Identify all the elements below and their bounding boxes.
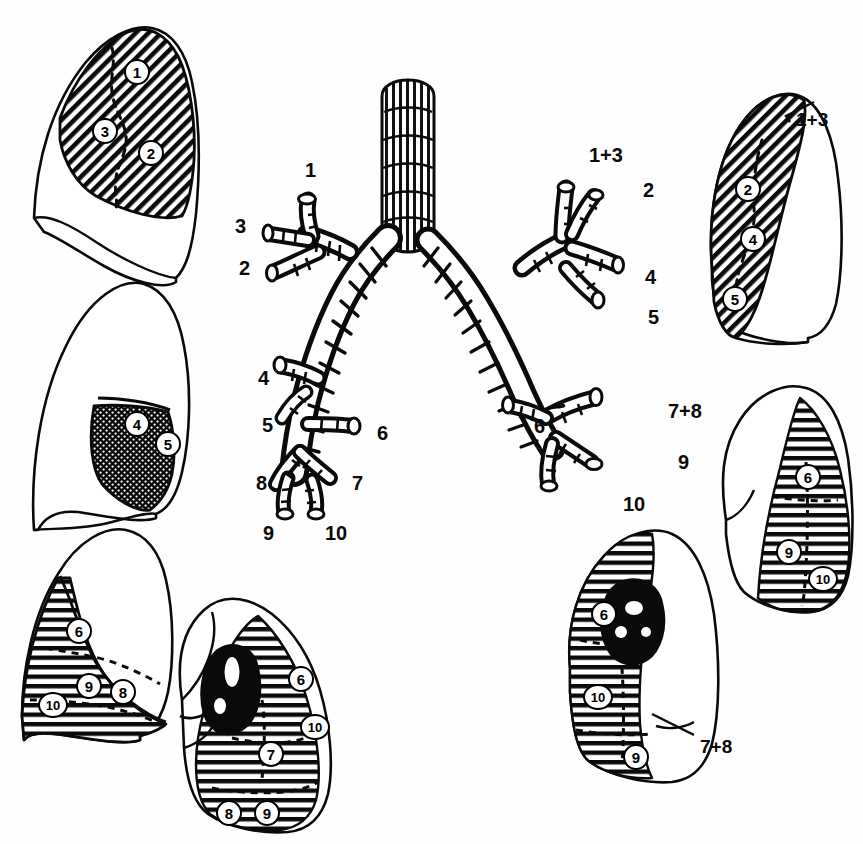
segment-badge-p5-4: 4 bbox=[740, 226, 766, 252]
tree-label-left-2: 2 bbox=[239, 258, 250, 278]
segment-badge-p4-9: 9 bbox=[254, 800, 280, 826]
segment-badge-p4-7: 7 bbox=[258, 741, 284, 767]
bronchopulmonary-segment-figure: 1 3 2 4 5 6 8 7 9 10 1+3 2 4 5 6 7+8 9 1… bbox=[0, 0, 863, 844]
bronchial-tree-artwork bbox=[263, 80, 624, 519]
segment-badge-p7-10: 10 bbox=[583, 684, 613, 710]
tree-label-right-1plus3: 1+3 bbox=[589, 145, 623, 165]
segment-badge-p6-9: 9 bbox=[776, 539, 802, 565]
segment-badge-p4-6: 6 bbox=[288, 666, 314, 692]
panel-left-lung-lateral-upper bbox=[34, 27, 199, 285]
segment-badge-p1-1: 1 bbox=[124, 59, 150, 85]
segment-badge-p3-8: 8 bbox=[110, 679, 136, 705]
tree-label-left-3: 3 bbox=[235, 216, 246, 236]
segment-badge-p5-5: 5 bbox=[722, 286, 748, 312]
segment-badge-p5-2: 2 bbox=[735, 176, 761, 202]
segment-badge-p2-5: 5 bbox=[155, 431, 181, 457]
tree-label-left-10: 10 bbox=[325, 523, 347, 543]
tree-label-left-6: 6 bbox=[377, 423, 388, 443]
tree-label-left-7: 7 bbox=[352, 473, 363, 493]
tree-label-right-5: 5 bbox=[648, 307, 659, 327]
segment-badge-p7-9: 9 bbox=[623, 744, 649, 770]
segment-badge-p7-6: 6 bbox=[591, 601, 617, 627]
segment-badge-p6-10: 10 bbox=[808, 566, 838, 592]
segment-badge-p4-10: 10 bbox=[300, 714, 330, 740]
tree-label-right-7plus8: 7+8 bbox=[668, 401, 702, 421]
right-lower-segmental-bronchi bbox=[503, 389, 603, 492]
segment-badge-p1-3: 3 bbox=[92, 118, 118, 144]
tree-label-left-9: 9 bbox=[263, 523, 274, 543]
tree-label-right-10: 10 bbox=[623, 494, 645, 514]
tree-label-right-9: 9 bbox=[678, 452, 689, 472]
segment-badge-p3-6: 6 bbox=[66, 618, 92, 644]
segment-badge-p4-8: 8 bbox=[216, 800, 242, 826]
callout-7plus8: 7+8 bbox=[700, 737, 732, 756]
segment-badge-p6-6: 6 bbox=[795, 464, 821, 490]
right-upper-segmental-bronchi bbox=[522, 182, 624, 308]
tree-label-left-1: 1 bbox=[305, 160, 316, 180]
segment-badge-p2-4: 4 bbox=[124, 411, 150, 437]
panel-right-lung-medial-lower bbox=[569, 531, 718, 783]
tree-label-left-5: 5 bbox=[262, 415, 273, 435]
tree-label-left-8: 8 bbox=[256, 473, 267, 493]
tree-label-right-6: 6 bbox=[534, 416, 545, 436]
tree-label-left-4: 4 bbox=[258, 368, 269, 388]
callout-1plus3: 1+3 bbox=[796, 110, 828, 129]
panel-left-lung-lateral-lingula bbox=[33, 283, 189, 530]
left-upper-segmental-bronchi bbox=[263, 194, 350, 281]
segment-badge-p3-9: 9 bbox=[76, 673, 102, 699]
tree-label-right-2: 2 bbox=[643, 180, 654, 200]
tree-label-right-4: 4 bbox=[645, 267, 656, 287]
segment-badge-p1-2: 2 bbox=[138, 140, 164, 166]
segment-badge-p3-10: 10 bbox=[38, 692, 68, 718]
